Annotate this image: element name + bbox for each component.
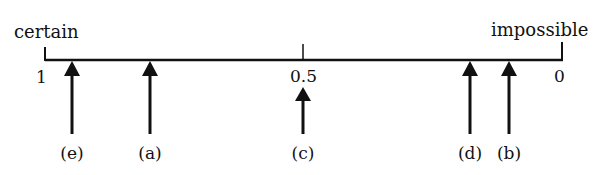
arrow-b-icon: [501, 61, 517, 134]
label-impossible: impossible: [491, 21, 588, 39]
tick-value-1: 1: [36, 69, 47, 86]
choice-label-a: (a): [138, 145, 161, 162]
tick-value-0: 0: [554, 68, 565, 85]
arrow-d-icon: [462, 61, 478, 134]
label-certain: certain: [14, 23, 79, 41]
arrow-e-icon: [64, 61, 80, 134]
tick-value-half: 0.5: [290, 68, 317, 85]
arrow-c-icon: [295, 87, 311, 134]
probability-scale-diagram: certain impossible 1 0.5 0 (e) (a) (c) (…: [0, 0, 599, 175]
choice-label-c: (c): [292, 145, 315, 162]
choice-label-d: (d): [458, 145, 482, 162]
arrow-a-icon: [142, 61, 158, 134]
choice-label-e: (e): [60, 145, 83, 162]
choice-label-b: (b): [497, 145, 521, 162]
